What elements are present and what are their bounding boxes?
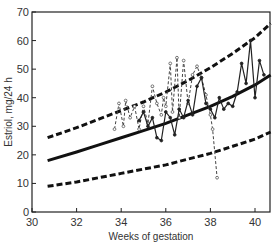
data-point-marker: [231, 105, 234, 108]
data-point-marker: [176, 56, 179, 59]
data-point-marker: [173, 133, 176, 136]
x-axis-title: Weeks of gestation: [109, 231, 194, 242]
data-point-marker: [160, 139, 163, 142]
data-point-marker: [209, 108, 212, 111]
x-tick-label: 32: [70, 216, 82, 228]
data-point-marker: [211, 128, 214, 131]
data-point-marker: [200, 76, 203, 79]
data-point-marker: [142, 105, 145, 108]
y-tick-label: 40: [17, 92, 29, 104]
data-point-marker: [191, 73, 194, 76]
estriol-chart: 010203040506070 303234363840 Weeks of ge…: [0, 0, 274, 246]
x-axis: 303234363840: [26, 208, 261, 228]
data-point-marker: [254, 96, 257, 99]
data-point-marker: [240, 62, 243, 65]
data-series: [48, 23, 271, 186]
data-point-marker: [160, 113, 163, 116]
y-tick-label: 10: [17, 177, 29, 189]
y-tick-label: 50: [17, 63, 29, 75]
data-point-marker: [164, 105, 167, 108]
data-point-marker: [151, 85, 154, 88]
data-point-marker: [196, 65, 199, 68]
x-tick-label: 38: [204, 216, 216, 228]
data-point-marker: [187, 99, 190, 102]
data-point-marker: [169, 62, 172, 65]
data-point-marker: [113, 128, 116, 131]
data-point-marker: [138, 128, 141, 131]
y-tick-label: 20: [17, 149, 29, 161]
x-tick-label: 34: [115, 216, 127, 228]
series-line-0: [48, 23, 271, 137]
series-line-1: [48, 75, 271, 161]
data-point-marker: [263, 73, 266, 76]
data-point-marker: [213, 116, 216, 119]
x-tick-label: 30: [26, 216, 38, 228]
x-tick-label: 36: [160, 216, 172, 228]
data-point-marker: [155, 136, 158, 139]
data-point-marker: [151, 116, 154, 119]
data-point-marker: [169, 116, 172, 119]
data-point-marker: [118, 102, 121, 105]
data-point-marker: [227, 102, 230, 105]
data-point-marker: [245, 82, 248, 85]
y-tick-label: 70: [17, 6, 29, 18]
data-point-marker: [258, 59, 261, 62]
data-point-marker: [218, 96, 221, 99]
data-point-marker: [171, 111, 174, 114]
data-point-marker: [162, 96, 165, 99]
y-axis-title: Estriol, mg/24 h: [3, 77, 14, 146]
data-point-marker: [124, 99, 127, 102]
data-point-marker: [205, 102, 208, 105]
data-point-marker: [216, 176, 219, 179]
data-point-marker: [129, 116, 132, 119]
data-point-marker: [142, 111, 145, 114]
data-point-marker: [236, 91, 239, 94]
x-tick-label: 40: [249, 216, 261, 228]
y-tick-label: 60: [17, 35, 29, 47]
series-line-2: [48, 132, 271, 186]
data-point-marker: [133, 105, 136, 108]
y-tick-label: 30: [17, 120, 29, 132]
data-point-marker: [209, 113, 212, 116]
data-point-marker: [164, 111, 167, 114]
data-point-marker: [182, 116, 185, 119]
data-point-marker: [182, 59, 185, 62]
data-point-marker: [138, 119, 141, 122]
data-point-marker: [191, 113, 194, 116]
y-axis: 010203040506070: [17, 6, 36, 218]
data-point-marker: [122, 125, 125, 128]
data-point-marker: [249, 39, 252, 42]
data-point-marker: [147, 125, 150, 128]
data-point-marker: [155, 102, 158, 105]
data-point-marker: [196, 85, 199, 88]
data-point-marker: [178, 108, 181, 111]
data-point-marker: [222, 108, 225, 111]
